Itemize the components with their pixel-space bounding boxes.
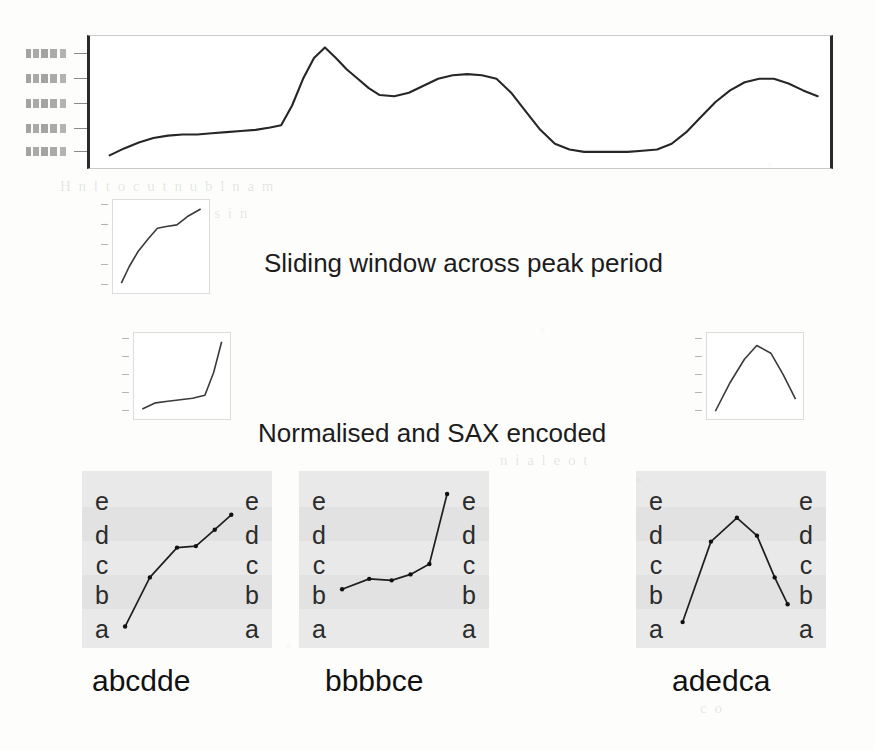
caption-sliding-window: Sliding window across peak period <box>264 248 663 279</box>
sax-letter-d: d <box>87 523 117 548</box>
sax-letter-a: a <box>454 617 484 642</box>
sax-letter-b: b <box>454 583 484 608</box>
sax-letter-a: a <box>304 617 334 642</box>
sax-letter-b: b <box>87 583 117 608</box>
sax-letter-c: c <box>87 553 117 578</box>
sax-letter-b: b <box>641 583 671 608</box>
sax-letter-c: c <box>237 553 267 578</box>
sax-panel-1: e d c b a e d c b a <box>82 471 272 648</box>
sax-letter-b: b <box>237 583 267 608</box>
sax-letters-right: e d c b a <box>791 471 821 648</box>
sax-letter-d: d <box>237 523 267 548</box>
y-axis-label <box>26 147 68 156</box>
sax-word-3: adedca <box>672 664 770 698</box>
sax-letters-left: e d c b a <box>641 471 671 648</box>
main-series-line <box>87 35 833 169</box>
y-axis-tick <box>74 128 87 129</box>
sax-letters-right: e d c b a <box>237 471 267 648</box>
sax-letter-d: d <box>304 523 334 548</box>
sax-letter-a: a <box>791 617 821 642</box>
sax-letter-d: d <box>454 523 484 548</box>
sax-letters-right: e d c b a <box>454 471 484 648</box>
sliding-window-plot-1 <box>112 199 210 294</box>
sax-letter-a: a <box>237 617 267 642</box>
sax-letter-d: d <box>641 523 671 548</box>
sax-letter-e: e <box>791 489 821 514</box>
y-axis-label <box>26 99 68 108</box>
scan-ghost-artifact: H n l t o c u t n u b l n a m <box>60 178 276 195</box>
y-axis-tick <box>74 78 87 79</box>
sax-letter-b: b <box>791 583 821 608</box>
sax-letter-e: e <box>87 489 117 514</box>
y-axis-tick <box>74 103 87 104</box>
sax-panel-3: e d c b a e d c b a <box>636 471 826 648</box>
sliding-window-plot-3 <box>706 332 804 420</box>
main-chart-y-axis-labels <box>26 35 88 169</box>
sax-letter-a: a <box>87 617 117 642</box>
y-axis-label <box>26 49 68 58</box>
sax-panel-2: e d c b a e d c b a <box>299 471 489 648</box>
scan-ghost-artifact: n i a l e o t <box>500 452 589 469</box>
y-axis-label <box>26 124 68 133</box>
sax-letter-e: e <box>237 489 267 514</box>
sax-letter-b: b <box>304 583 334 608</box>
sax-letter-d: d <box>791 523 821 548</box>
sax-letter-e: e <box>641 489 671 514</box>
sax-word-1: abcdde <box>92 664 190 698</box>
caption-normalised-sax: Normalised and SAX encoded <box>258 418 606 449</box>
sax-letters-left: e d c b a <box>304 471 334 648</box>
window-3-ticks <box>695 336 707 416</box>
scan-ghost-artifact: c o <box>700 700 724 717</box>
sax-letter-c: c <box>791 553 821 578</box>
sax-letter-c: c <box>304 553 334 578</box>
y-axis-tick <box>74 53 87 54</box>
sliding-window-plot-2 <box>133 332 231 420</box>
sax-letter-e: e <box>454 489 484 514</box>
main-timeseries-chart <box>87 35 833 169</box>
sax-letter-c: c <box>454 553 484 578</box>
y-axis-label <box>26 74 68 83</box>
sax-letters-left: e d c b a <box>87 471 117 648</box>
sax-letter-a: a <box>641 617 671 642</box>
sax-word-2: bbbbce <box>325 664 423 698</box>
sax-letter-e: e <box>304 489 334 514</box>
sax-letter-c: c <box>641 553 671 578</box>
window-2-ticks <box>122 336 134 416</box>
window-1-ticks <box>101 200 113 292</box>
y-axis-tick <box>74 151 87 152</box>
